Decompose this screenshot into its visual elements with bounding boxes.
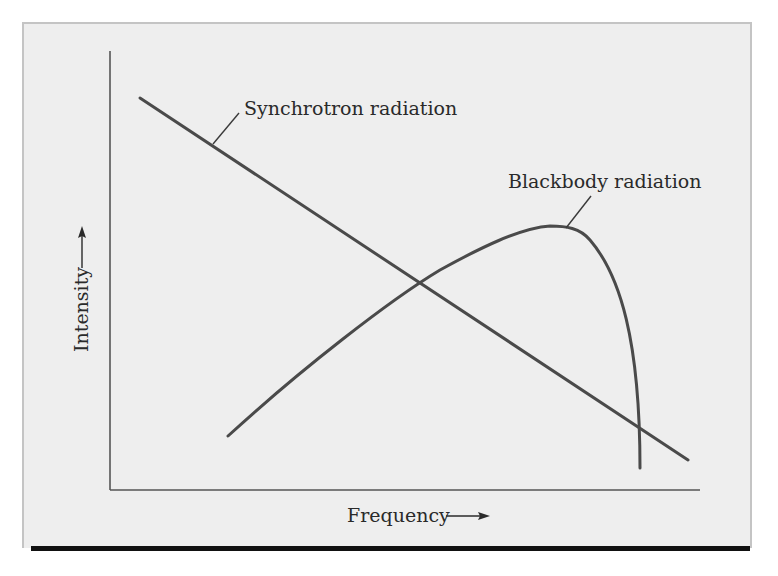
figure: Synchrotron radiation Blackbody radiatio… bbox=[0, 0, 778, 576]
blackbody-curve bbox=[228, 226, 640, 468]
plot-area: Synchrotron radiation Blackbody radiatio… bbox=[0, 0, 778, 576]
x-axis-label: Frequency bbox=[347, 504, 450, 526]
synchrotron-leader-line bbox=[213, 113, 239, 144]
y-axis-label: Intensity bbox=[70, 267, 92, 352]
synchrotron-label: Synchrotron radiation bbox=[244, 97, 457, 119]
blackbody-leader-line bbox=[566, 196, 591, 228]
synchrotron-curve bbox=[140, 98, 688, 460]
x-axis-arrow-icon bbox=[446, 512, 490, 520]
blackbody-label: Blackbody radiation bbox=[508, 170, 701, 192]
y-axis-arrow-icon bbox=[78, 226, 86, 268]
